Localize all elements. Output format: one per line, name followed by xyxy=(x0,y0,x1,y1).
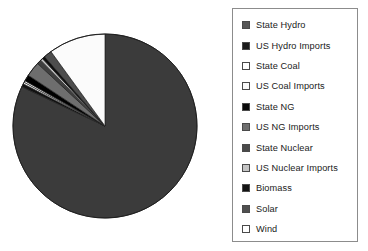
legend-box: State HydroUS Hydro ImportsState CoalUS … xyxy=(232,8,358,242)
legend-item-label: State Hydro xyxy=(256,20,306,30)
legend-swatch-icon xyxy=(242,225,250,233)
legend-swatch-icon xyxy=(242,62,250,70)
legend-item-label: State Coal xyxy=(256,61,300,71)
legend-list: State HydroUS Hydro ImportsState CoalUS … xyxy=(233,15,357,241)
legend-swatch-icon xyxy=(242,103,250,111)
legend-item[interactable]: US NG Imports xyxy=(233,117,357,137)
legend-item-label: State Nuclear xyxy=(256,143,313,153)
legend-item[interactable]: US Coal Imports xyxy=(233,76,357,96)
pie-chart-figure: State HydroUS Hydro ImportsState CoalUS … xyxy=(0,0,368,251)
legend-item[interactable]: Wind xyxy=(233,219,357,239)
legend-item[interactable]: State Hydro xyxy=(233,15,357,35)
legend-swatch-icon xyxy=(242,42,250,50)
legend-item-label: US Coal Imports xyxy=(256,81,325,91)
legend-item-label: Solar xyxy=(256,204,278,214)
legend-swatch-icon xyxy=(242,82,250,90)
legend-item[interactable]: State NG xyxy=(233,97,357,117)
legend-item-label: Biomass xyxy=(256,183,292,193)
pie-slice-group xyxy=(13,34,197,218)
legend-item[interactable]: Biomass xyxy=(233,178,357,198)
legend-swatch-icon xyxy=(242,184,250,192)
legend-swatch-icon xyxy=(242,21,250,29)
legend-item[interactable]: State Coal xyxy=(233,56,357,76)
legend-swatch-icon xyxy=(242,144,250,152)
legend-item[interactable]: US Hydro Imports xyxy=(233,35,357,55)
legend-swatch-icon xyxy=(242,164,250,172)
legend-swatch-icon xyxy=(242,205,250,213)
legend-item-label: US Nuclear Imports xyxy=(256,163,338,173)
pie-chart-svg xyxy=(0,0,214,251)
legend-item[interactable]: US Nuclear Imports xyxy=(233,158,357,178)
legend-item[interactable]: State Nuclear xyxy=(233,137,357,157)
legend-item-label: Wind xyxy=(256,224,277,234)
pie-chart-area xyxy=(0,0,214,251)
legend-swatch-icon xyxy=(242,123,250,131)
legend-item-label: US NG Imports xyxy=(256,122,319,132)
legend-item-label: State NG xyxy=(256,102,295,112)
legend-item[interactable]: Solar xyxy=(233,199,357,219)
legend-item-label: US Hydro Imports xyxy=(256,41,330,51)
